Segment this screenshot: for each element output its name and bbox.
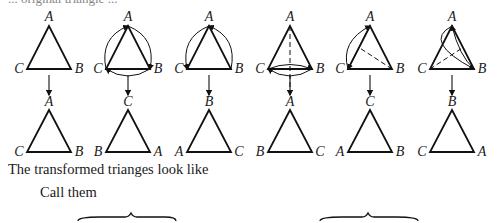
brace-M xyxy=(320,213,418,221)
brace-I-J xyxy=(78,213,176,221)
grouping-braces xyxy=(0,0,497,223)
